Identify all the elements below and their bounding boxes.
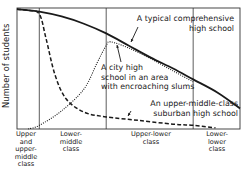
x-label-upper-lower-class: Upper-lower class [126,131,176,146]
annotation-suburban-high-school: An upper-middle-class suburban high scho… [126,99,238,118]
x-label-lower-middle-class: Lower- middle class [55,131,87,154]
annotation-typical-comprehensive: A typical comprehensive high school [134,14,234,33]
x-label-lower-lower-class: Lower- lower class [202,131,232,154]
y-axis-label: Number of students [1,28,13,108]
annotation-city-high-school: A city high school in an area with encro… [101,63,211,92]
x-label-upper-class: Upper and upper- middle class [11,131,41,169]
